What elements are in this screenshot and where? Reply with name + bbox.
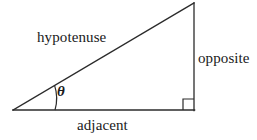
right-triangle-drawing — [0, 0, 257, 140]
right-angle-marker-icon — [183, 99, 194, 110]
trigonometry-figure: hypotenuse opposite adjacent θ — [0, 0, 257, 140]
opposite-label: opposite — [198, 51, 250, 66]
theta-angle-label: θ — [57, 84, 65, 99]
hypotenuse-label: hypotenuse — [37, 30, 106, 45]
adjacent-label: adjacent — [77, 118, 128, 133]
hypotenuse-side-line — [13, 3, 194, 110]
